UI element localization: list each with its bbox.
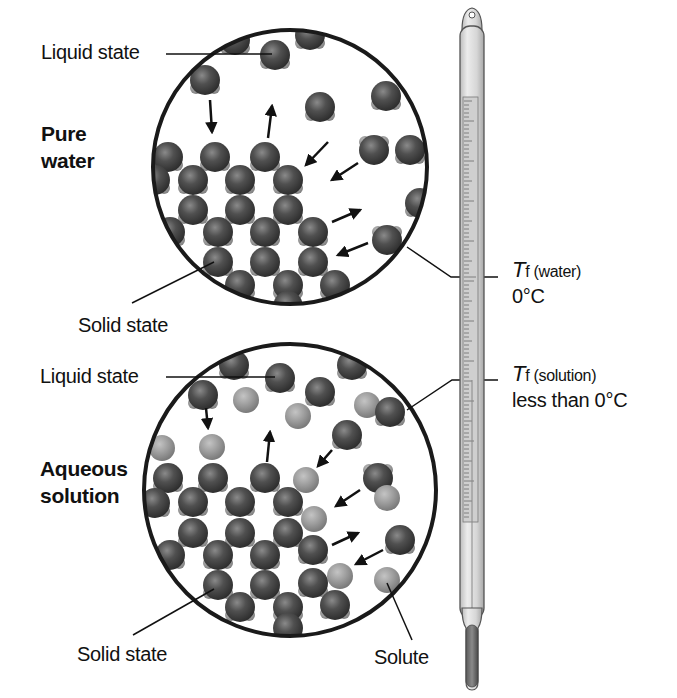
top-solid-state-label: Solid state [78, 313, 168, 337]
thermometer [460, 8, 484, 690]
pure-water-heading-line2: water [41, 147, 94, 174]
tf-water-value: 0°C [512, 284, 545, 308]
tf-solution-label: Tf (solution) [512, 362, 596, 388]
tf-water-label: Tf (water) [512, 258, 581, 284]
tf-solution-subscript: f (solution) [525, 367, 596, 384]
tf-solution-symbol: T [512, 361, 525, 386]
top-liquid-state-label: Liquid state [41, 40, 140, 64]
diagram-graphics [0, 0, 677, 698]
tf-water-subscript: f (water) [525, 263, 581, 280]
aqueous-solution-heading-line2: solution [40, 482, 119, 509]
pure-water-circle [140, 20, 435, 321]
pure-water-heading-line1: Pure [41, 120, 87, 147]
bottom-liquid-state-label: Liquid state [40, 364, 139, 388]
diagram-canvas: Liquid state Pure water Solid state Liqu… [0, 0, 677, 698]
tf-solution-value: less than 0°C [512, 388, 627, 412]
bottom-solid-state-label: Solid state [77, 642, 167, 666]
tf-water-symbol: T [512, 257, 525, 282]
solute-label: Solute [374, 645, 429, 669]
aqueous-solution-heading-line1: Aqueous [40, 455, 128, 482]
